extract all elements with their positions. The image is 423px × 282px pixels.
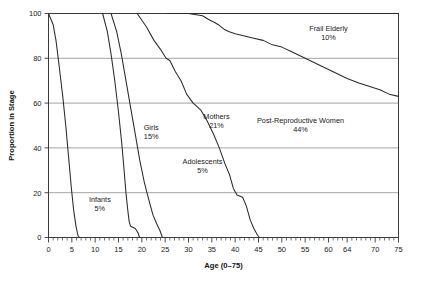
y-axis-ticks <box>45 14 49 238</box>
annotation-label-frail: Frail Elderly <box>309 24 348 33</box>
annotation-label-infants: Infants <box>89 195 111 204</box>
annotation-infants: Infants5% <box>89 195 111 213</box>
x-tick-label-5: 5 <box>70 245 74 254</box>
x-tick-label-30: 30 <box>184 245 192 254</box>
x-tick-label-60: 60 <box>324 245 332 254</box>
x-tick-label-20: 20 <box>138 245 146 254</box>
x-tick-label-45: 45 <box>254 245 262 254</box>
y-tick-label-40: 40 <box>33 144 41 153</box>
annotation-mothers: Mothers21% <box>203 112 230 130</box>
x-tick-label-0: 0 <box>46 245 50 254</box>
annotation-percent-frail: 10% <box>321 33 336 42</box>
series-annotations: Infants5%Girls15%Adolescents5%Mothers21%… <box>89 24 348 212</box>
y-tick-label-60: 60 <box>33 99 41 108</box>
x-tick-label-25: 25 <box>161 245 169 254</box>
annotation-percent-mothers: 21% <box>209 121 224 130</box>
annotation-frail: Frail Elderly10% <box>309 24 348 42</box>
x-axis-tick-labels: 051015202530354045505560647075 <box>46 245 402 254</box>
gridlines <box>49 14 399 193</box>
x-tick-label-55: 55 <box>301 245 309 254</box>
curve-infants <box>49 14 80 238</box>
annotation-label-postrep: Post-Reproductive Women <box>257 116 344 125</box>
annotation-percent-infants: 5% <box>95 204 106 213</box>
x-tick-label-35: 35 <box>208 245 216 254</box>
y-tick-label-0: 0 <box>37 233 41 242</box>
annotation-label-adolesc: Adolescents <box>183 157 223 166</box>
x-tick-label-40: 40 <box>231 245 239 254</box>
y-tick-label-20: 20 <box>33 189 41 198</box>
x-tick-label-15: 15 <box>114 245 122 254</box>
annotation-postrep: Post-Reproductive Women44% <box>257 116 344 134</box>
x-tick-label-70: 70 <box>371 245 379 254</box>
annotation-percent-postrep: 44% <box>293 125 308 134</box>
line-chart: 051015202530354045505560647075 020406080… <box>0 0 423 282</box>
y-axis-title: Proportion in Stage <box>7 90 16 160</box>
x-tick-label-75: 75 <box>394 245 402 254</box>
curve-post-reproductive-women <box>167 14 398 97</box>
y-axis-tick-labels: 020406080100 <box>29 9 42 242</box>
x-tick-label-10: 10 <box>91 245 99 254</box>
x-axis-title: Age (0–75) <box>204 261 243 270</box>
x-tick-label-64: 64 <box>343 245 351 254</box>
annotation-label-girls: Girls <box>144 123 159 132</box>
annotation-label-mothers: Mothers <box>203 112 230 121</box>
annotation-percent-girls: 15% <box>144 132 159 141</box>
chart-container: 051015202530354045505560647075 020406080… <box>0 0 423 282</box>
annotation-girls: Girls15% <box>144 123 159 141</box>
y-tick-label-80: 80 <box>33 54 41 63</box>
x-tick-label-50: 50 <box>278 245 286 254</box>
annotation-percent-adolesc: 5% <box>197 166 208 175</box>
annotation-adolesc: Adolescents5% <box>183 157 223 175</box>
x-axis-ticks <box>49 238 399 243</box>
y-tick-label-100: 100 <box>29 9 42 18</box>
